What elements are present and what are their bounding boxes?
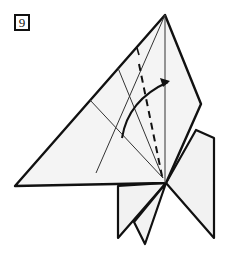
origami-diagram [0,0,227,256]
main-body [15,15,201,186]
